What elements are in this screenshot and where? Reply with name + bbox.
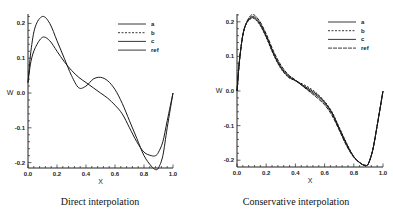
y-tick-label: -0.1 [224,123,235,129]
y-axis-label: W [216,87,223,94]
figure: 0.00.20.40.60.81.00.20.10.0-0.1-0.2XWabc… [0,0,393,211]
x-tick-label: 1.0 [379,170,388,176]
y-tick-label: 0.0 [226,88,235,94]
legend: abcref [118,21,160,53]
y-axis-label: W [7,89,14,96]
x-tick-label: 0.4 [82,171,91,177]
y-tick-label: 0.1 [17,55,26,61]
y-tick-label: -0.2 [224,157,235,163]
y-tick-label: -0.1 [15,125,26,131]
chart-direct-interpolation: 0.00.20.40.60.81.00.20.10.0-0.1-0.2XWabc… [7,14,178,185]
legend-label-c: c [151,38,155,44]
legend-label-ref: ref [151,47,160,53]
x-tick-label: 0.2 [53,171,62,177]
y-tick-label: -0.2 [15,160,26,166]
chart-conservative-interpolation: 0.00.20.40.60.81.00.20.10.0-0.1-0.2XWabc… [216,14,388,184]
caption-conservative-interpolation: Conservative interpolation [243,196,349,207]
legend: abcref [328,19,370,51]
x-tick-label: 0.6 [320,170,329,176]
y-tick-label: 0.2 [226,19,235,25]
x-axis-label: X [98,178,103,185]
x-tick-label: 0.8 [350,170,359,176]
legend-label-ref: ref [361,45,370,51]
x-tick-label: 0.6 [111,171,120,177]
series-line-lower-curve [28,37,173,156]
x-tick-label: 0.0 [233,170,242,176]
legend-label-a: a [361,19,365,25]
y-tick-label: 0.0 [17,90,26,96]
y-tick-label: 0.1 [226,53,235,59]
legend-label-a: a [151,21,155,27]
x-axis-label: X [308,177,313,184]
x-tick-label: 1.0 [169,171,178,177]
legend-label-c: c [361,36,365,42]
x-tick-label: 0.2 [262,170,271,176]
x-tick-label: 0.4 [291,170,300,176]
caption-direct-interpolation: Direct interpolation [61,196,140,207]
legend-label-b: b [361,28,365,34]
x-tick-label: 0.8 [140,171,149,177]
y-tick-label: 0.2 [17,20,26,26]
x-tick-label: 0.0 [24,171,33,177]
legend-label-b: b [151,30,155,36]
